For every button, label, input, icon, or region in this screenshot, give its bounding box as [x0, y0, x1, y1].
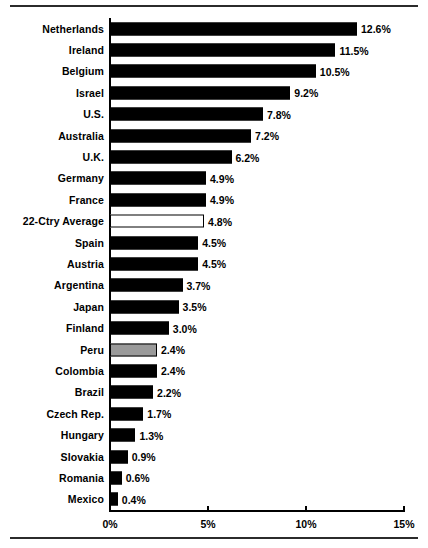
- x-axis-tick-label: 15%: [393, 518, 414, 530]
- bar-row: France4.9%: [0, 189, 428, 210]
- bar-row: Slovakia0.9%: [0, 446, 428, 467]
- bar-category-label: Argentina: [54, 279, 104, 291]
- bar-value-label: 10.5%: [320, 65, 350, 77]
- bar-row: Hungary1.3%: [0, 424, 428, 445]
- bar-wrapper: 1.7%: [110, 407, 143, 420]
- bar: [110, 471, 122, 484]
- bar-row: Mexico0.4%: [0, 489, 428, 510]
- bar-value-label: 9.2%: [294, 87, 318, 99]
- bar-category-label: France: [69, 194, 104, 206]
- bar-row: Finland3.0%: [0, 317, 428, 338]
- bar: [110, 429, 135, 442]
- bar-category-label: Japan: [73, 301, 104, 313]
- bar: [110, 44, 335, 57]
- bar-row: Ireland11.5%: [0, 39, 428, 60]
- bar-category-label: Czech Rep.: [46, 408, 104, 420]
- bar: [110, 236, 198, 249]
- bar-value-label: 0.4%: [122, 493, 146, 505]
- bar-wrapper: 0.6%: [110, 471, 122, 484]
- bar-value-label: 4.9%: [210, 194, 234, 206]
- bar: [110, 172, 206, 185]
- bar-wrapper: 3.5%: [110, 300, 179, 313]
- bar-row: Israel9.2%: [0, 82, 428, 103]
- bar-category-label: Hungary: [61, 429, 104, 441]
- bar-row: Colombia2.4%: [0, 360, 428, 381]
- bar: [110, 386, 153, 399]
- bar-wrapper: 7.8%: [110, 108, 263, 121]
- bar-value-label: 1.3%: [139, 429, 163, 441]
- x-axis-tick-label: 5%: [200, 518, 215, 530]
- bar-row: Germany4.9%: [0, 168, 428, 189]
- figure-bottom-rule: [10, 537, 418, 539]
- bar-wrapper: 4.9%: [110, 193, 206, 206]
- x-axis-tick-label: 0%: [102, 518, 117, 530]
- bar-row: Belgium10.5%: [0, 61, 428, 82]
- bar-row: 22-Ctry Average4.8%: [0, 211, 428, 232]
- bar-row: Czech Rep.1.7%: [0, 403, 428, 424]
- bar-value-label: 7.2%: [255, 130, 279, 142]
- bar-row: Brazil2.2%: [0, 382, 428, 403]
- bar-row: U.K.6.2%: [0, 146, 428, 167]
- bar-wrapper: 2.2%: [110, 386, 153, 399]
- bar-value-label: 4.9%: [210, 172, 234, 184]
- bar-value-label: 4.5%: [202, 237, 226, 249]
- bar-value-label: 6.2%: [236, 151, 260, 163]
- x-axis-line: [109, 510, 405, 512]
- bar-wrapper: 2.4%: [110, 364, 157, 377]
- bar-category-label: Germany: [58, 172, 104, 184]
- bar-row: U.S.7.8%: [0, 104, 428, 125]
- bar: [110, 364, 157, 377]
- bar-wrapper: 1.3%: [110, 429, 135, 442]
- bar-value-label: 2.4%: [161, 365, 185, 377]
- bar-value-label: 0.9%: [132, 451, 156, 463]
- bar-wrapper: 10.5%: [110, 65, 316, 78]
- x-axis-tick: [207, 506, 209, 511]
- bar: [110, 65, 316, 78]
- bar-wrapper: 12.6%: [110, 22, 357, 35]
- bar: [110, 450, 128, 463]
- x-axis-tick: [403, 506, 405, 511]
- bar-wrapper: 6.2%: [110, 151, 232, 164]
- bar-wrapper: 4.9%: [110, 172, 206, 185]
- bar: [110, 407, 143, 420]
- bar-value-label: 11.5%: [339, 44, 368, 56]
- bar-wrapper: 4.5%: [110, 257, 198, 270]
- bar-wrapper: 3.7%: [110, 279, 183, 292]
- bar: [110, 215, 204, 228]
- bar-wrapper: 4.8%: [110, 215, 204, 228]
- bar-row: Spain4.5%: [0, 232, 428, 253]
- bar-row: Australia7.2%: [0, 125, 428, 146]
- bar-wrapper: 7.2%: [110, 129, 251, 142]
- chart-figure: Netherlands12.6%Ireland11.5%Belgium10.5%…: [0, 0, 428, 548]
- bar-wrapper: 11.5%: [110, 44, 335, 57]
- bar-row: Argentina3.7%: [0, 275, 428, 296]
- bar: [110, 322, 169, 335]
- bar-category-label: Brazil: [75, 386, 104, 398]
- bar-category-label: Netherlands: [42, 23, 104, 35]
- bar-row: Netherlands12.6%: [0, 18, 428, 39]
- x-axis-tick: [305, 506, 307, 511]
- bar-category-label: Spain: [75, 237, 104, 249]
- bar-category-label: Belgium: [62, 65, 104, 77]
- bar-category-label: Ireland: [69, 44, 104, 56]
- bar: [110, 343, 157, 356]
- bar: [110, 86, 290, 99]
- bar-row: Peru2.4%: [0, 339, 428, 360]
- bar-wrapper: 2.4%: [110, 343, 157, 356]
- bar-category-label: Finland: [66, 322, 104, 334]
- bar-category-label: Colombia: [55, 365, 104, 377]
- bar: [110, 300, 179, 313]
- bar-rows: Netherlands12.6%Ireland11.5%Belgium10.5%…: [0, 18, 428, 510]
- bar-category-label: 22-Ctry Average: [23, 215, 104, 227]
- x-axis-tick-label: 10%: [295, 518, 316, 530]
- bar-value-label: 4.8%: [208, 215, 232, 227]
- bar-value-label: 3.7%: [187, 279, 211, 291]
- bar-category-label: U.K.: [83, 151, 104, 163]
- bar-value-label: 2.2%: [157, 386, 181, 398]
- bar-row: Japan3.5%: [0, 296, 428, 317]
- bar-value-label: 12.6%: [361, 23, 391, 35]
- bar-wrapper: 0.4%: [110, 493, 118, 506]
- bar: [110, 129, 251, 142]
- bar-value-label: 0.6%: [126, 472, 150, 484]
- bar-value-label: 3.0%: [173, 322, 197, 334]
